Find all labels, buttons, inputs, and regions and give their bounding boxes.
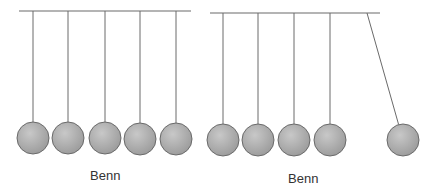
right-panel-caption: Benn: [288, 172, 318, 186]
newtons-cradle-diagram: [0, 0, 434, 193]
pendulum-ball: [17, 122, 49, 154]
pendulum-ball: [89, 122, 121, 154]
pendulum-ball: [124, 123, 156, 155]
pendulum-ball: [314, 124, 346, 156]
pendulum-ball: [278, 124, 310, 156]
swinging-string: [367, 13, 399, 125]
pendulum-ball: [207, 124, 239, 156]
left-panel-caption: Benn: [90, 169, 120, 183]
pendulum-ball: [160, 123, 192, 155]
left-cradle: [17, 11, 192, 155]
right-cradle: [207, 13, 419, 156]
swinging-ball: [387, 124, 419, 156]
pendulum-ball: [242, 124, 274, 156]
pendulum-ball: [52, 122, 84, 154]
